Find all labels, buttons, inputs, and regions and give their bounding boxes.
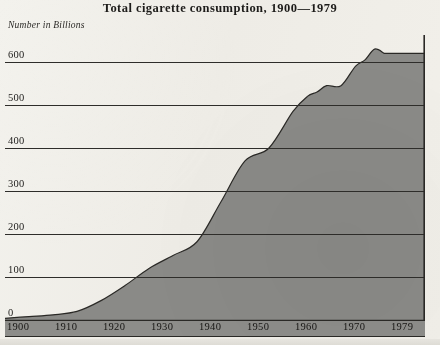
page-bottom-edge <box>0 339 440 345</box>
area-series-fill <box>5 49 425 320</box>
y-tick-label-300: 300 <box>8 178 24 190</box>
plot-right-border <box>423 35 425 320</box>
x-tick-label-1920: 1920 <box>103 321 125 332</box>
x-tick-label-1979: 1979 <box>391 321 413 332</box>
x-tick-label-1910: 1910 <box>55 321 77 332</box>
plot-area <box>5 35 425 320</box>
chart-container: Total cigarette consumption, 1900—1979 N… <box>0 0 440 345</box>
x-tick-label-1970: 1970 <box>343 321 365 332</box>
y-tick-label-100: 100 <box>8 264 24 276</box>
x-tick-label-1960: 1960 <box>295 321 317 332</box>
chart-title: Total cigarette consumption, 1900—1979 <box>0 1 440 16</box>
x-tick-label-1930: 1930 <box>151 321 173 332</box>
area-chart-svg <box>5 35 425 320</box>
x-tick-label-1940: 1940 <box>199 321 221 332</box>
y-tick-label-0: 0 <box>8 307 13 319</box>
y-tick-label-500: 500 <box>8 92 24 104</box>
x-tick-label-1900: 1900 <box>7 321 29 332</box>
y-axis-units-label: Number in Billions <box>8 20 85 30</box>
y-tick-label-400: 400 <box>8 135 24 147</box>
y-tick-label-200: 200 <box>8 221 24 233</box>
y-tick-label-600: 600 <box>8 49 24 61</box>
x-tick-label-1950: 1950 <box>247 321 269 332</box>
